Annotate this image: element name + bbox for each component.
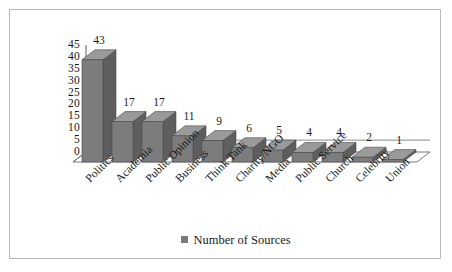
chart-outer-frame: 454035302520151050 431717119654421 Polit…: [9, 9, 441, 259]
y-tick-20: 20: [54, 98, 80, 109]
y-tick-25: 25: [54, 87, 80, 98]
y-tick-10: 10: [54, 122, 80, 133]
y-tick-0: 0: [54, 146, 80, 157]
bar-front-face: [82, 60, 103, 162]
bar-value-label: 1: [369, 135, 430, 146]
bar-value-label: 17: [129, 97, 190, 108]
chart-figure: 454035302520151050 431717119654421 Polit…: [0, 0, 452, 272]
bar-front-face: [112, 122, 133, 162]
bar-value-label: 43: [69, 35, 130, 46]
y-tick-15: 15: [54, 110, 80, 121]
legend-entry-number-of-sources: Number of Sources: [181, 232, 290, 248]
y-tick-30: 30: [54, 75, 80, 86]
legend-swatch-icon: [181, 236, 188, 243]
chart-legend: Number of Sources: [10, 232, 452, 248]
legend-label: Number of Sources: [193, 233, 290, 247]
y-tick-40: 40: [54, 51, 80, 62]
y-tick-5: 5: [54, 134, 80, 145]
y-tick-35: 35: [54, 63, 80, 74]
